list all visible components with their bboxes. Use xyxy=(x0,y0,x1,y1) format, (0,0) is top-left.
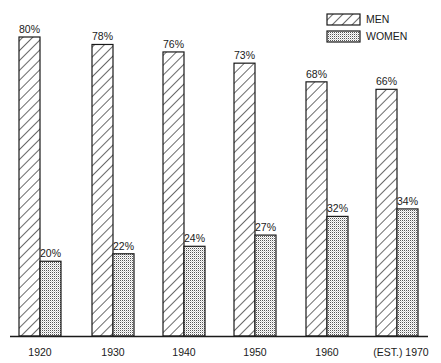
value-label-men-4: 68% xyxy=(306,68,327,80)
bar-men-1 xyxy=(92,44,113,336)
value-label-men-3: 73% xyxy=(234,49,255,61)
bar-women-1 xyxy=(113,254,134,336)
bar-men-0 xyxy=(19,37,40,336)
legend-label-women: WOMEN xyxy=(366,30,407,42)
x-axis-tick-labels: 19201930194019501960(EST.) 1970 xyxy=(28,346,429,358)
value-label-women-4: 32% xyxy=(327,202,348,214)
value-label-women-1: 22% xyxy=(113,240,134,252)
bar-women-3 xyxy=(255,235,276,336)
value-label-men-2: 76% xyxy=(163,38,184,50)
bar-men-3 xyxy=(234,63,255,336)
value-label-women-0: 20% xyxy=(40,247,61,259)
x-tick-label-0: 1920 xyxy=(28,346,52,358)
value-label-men-1: 78% xyxy=(92,30,113,42)
x-tick-label-5: (EST.) 1970 xyxy=(373,346,429,358)
legend-label-men: MEN xyxy=(366,13,389,25)
x-tick-label-1: 1930 xyxy=(101,346,125,358)
x-tick-label-3: 1950 xyxy=(243,346,267,358)
bar-women-5 xyxy=(397,209,418,336)
bar-men-4 xyxy=(306,82,327,336)
value-label-women-5: 34% xyxy=(397,195,418,207)
value-label-women-2: 24% xyxy=(184,232,205,244)
bar-women-2 xyxy=(184,246,205,336)
bar-women-0 xyxy=(40,261,61,336)
bar-men-5 xyxy=(376,89,397,336)
value-labels-group: 80%20%78%22%76%24%73%27%68%32%66%34% xyxy=(19,23,418,259)
chart-canvas: 80%20%78%22%76%24%73%27%68%32%66%34% 192… xyxy=(0,0,441,363)
bar-men-2 xyxy=(163,52,184,336)
legend: MEN WOMEN xyxy=(327,13,407,42)
x-tick-label-2: 1940 xyxy=(172,346,196,358)
bar-women-4 xyxy=(327,216,348,336)
value-label-men-5: 66% xyxy=(376,75,397,87)
legend-swatch-men xyxy=(327,14,360,25)
x-tick-label-4: 1960 xyxy=(315,346,339,358)
legend-swatch-women xyxy=(327,31,360,42)
bars-group xyxy=(19,37,418,336)
value-label-men-0: 80% xyxy=(19,23,40,35)
bar-chart: 80%20%78%22%76%24%73%27%68%32%66%34% 192… xyxy=(0,0,441,363)
value-label-women-3: 27% xyxy=(255,221,276,233)
